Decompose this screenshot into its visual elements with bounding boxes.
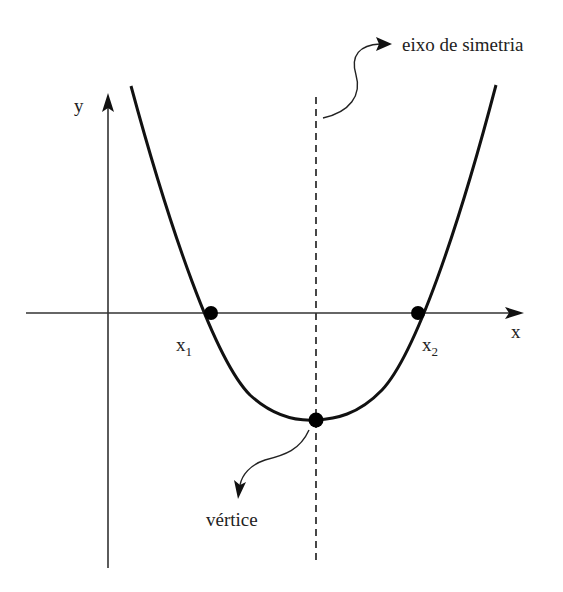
root-point-x1: [204, 306, 218, 320]
x-axis-label: x: [511, 322, 521, 341]
parabola-diagram: [0, 0, 563, 592]
root1-label-base: x: [176, 334, 186, 355]
root1-label: x1: [176, 335, 192, 358]
root2-label: x2: [422, 335, 438, 358]
root-point-x2: [411, 306, 425, 320]
root2-label-base: x: [422, 334, 432, 355]
symmetry-axis-label: eixo de simetria: [402, 35, 523, 54]
y-axis: [102, 93, 114, 568]
vertex-label: vértice: [206, 510, 258, 529]
vertex-pointer-arrow: [234, 430, 309, 499]
root1-label-sub: 1: [186, 344, 193, 359]
parabola-curve: [131, 85, 496, 420]
root2-label-sub: 2: [432, 344, 439, 359]
vertex-point: [309, 413, 324, 428]
symmetry-pointer-arrow: [323, 37, 392, 118]
y-axis-label: y: [74, 96, 84, 115]
x-axis: [26, 307, 524, 319]
